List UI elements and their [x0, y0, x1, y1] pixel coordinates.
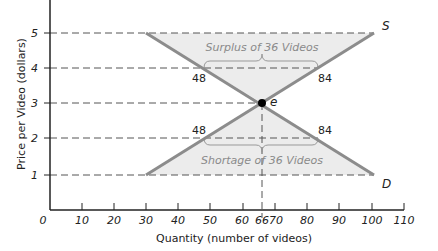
supply-demand-chart: 5 4 3 2 1 0 10 20 30 40 50 60 66 70 80 9…	[0, 0, 438, 251]
supply-label: S	[382, 19, 390, 33]
y-tick-2: 2	[31, 132, 38, 145]
demand-label: D	[382, 177, 391, 191]
x-tick-100: 100	[362, 214, 383, 227]
x-tick-80: 80	[300, 214, 314, 227]
x-axis-title: Quantity (number of videos)	[156, 232, 312, 245]
equilibrium-point	[258, 99, 266, 107]
equilibrium-label: e	[270, 95, 277, 109]
qs-at-4: 84	[318, 72, 332, 85]
y-tick-3: 3	[31, 97, 38, 110]
surplus-label: Surplus of 36 Videos	[205, 41, 318, 54]
qs-at-2: 48	[192, 124, 206, 137]
x-tick-30: 30	[139, 214, 153, 227]
x-tick-50: 50	[203, 214, 217, 227]
x-tick-0: 0	[40, 214, 47, 227]
y-tick-4: 4	[31, 62, 38, 75]
x-tick-20: 20	[107, 214, 121, 227]
x-tick-40: 40	[171, 214, 185, 227]
y-axis-title: Price per Video (dollars)	[15, 38, 28, 170]
x-tick-70: 70	[269, 214, 283, 227]
y-tick-1: 1	[31, 169, 38, 182]
x-tick-60: 60	[235, 214, 249, 227]
x-tick-66: 66	[255, 214, 269, 227]
x-tick-10: 10	[75, 214, 89, 227]
qd-at-2: 84	[318, 124, 332, 137]
x-tick-110: 110	[394, 214, 415, 227]
y-tick-5: 5	[31, 27, 38, 40]
shortage-label: Shortage of 36 Videos	[201, 154, 323, 167]
x-tick-90: 90	[332, 214, 346, 227]
qd-at-4: 48	[192, 72, 206, 85]
